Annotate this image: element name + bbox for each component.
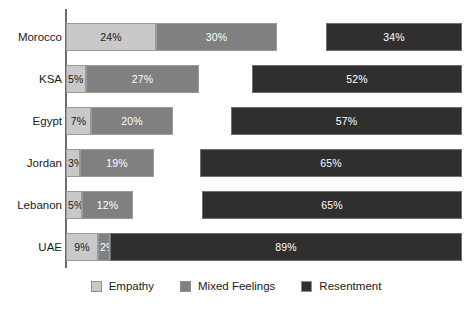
bar-segment-mixed-feelings[interactable]: 19% [80, 149, 154, 177]
legend-item-mixed-feelings[interactable]: Mixed Feelings [180, 280, 275, 292]
bar-segment-empathy[interactable]: 24% [66, 23, 156, 51]
legend-item-empathy[interactable]: Empathy [91, 280, 154, 292]
row-label: Egypt [0, 100, 62, 142]
row-label: UAE [0, 226, 62, 268]
bar-segment-resentment[interactable]: 65% [200, 149, 462, 177]
chart-legend: Empathy Mixed Feelings Resentment [0, 276, 472, 296]
chart-row-jordan: Jordan 3% 19% 65% [0, 142, 472, 184]
row-label: Jordan [0, 142, 62, 184]
legend-item-resentment[interactable]: Resentment [301, 280, 381, 292]
bar-segment-empathy[interactable]: 5% [66, 65, 86, 93]
legend-label: Resentment [319, 280, 381, 292]
chart-row-egypt: Egypt 7% 20% 57% [0, 100, 472, 142]
stacked-bar-chart: Morocco 24% 30% 34% KSA 5% 27% 52% Egypt… [0, 0, 472, 310]
bar-segment-mixed-feelings[interactable]: 2% [98, 233, 110, 261]
row-label: KSA [0, 58, 62, 100]
bar-segment-mixed-feelings[interactable]: 30% [156, 23, 277, 51]
bar-band: 3% 19% 65% [66, 149, 472, 177]
bar-band: 5% 27% 52% [66, 65, 472, 93]
bar-segment-resentment[interactable]: 34% [326, 23, 462, 51]
bar-segment-resentment[interactable]: 89% [110, 233, 462, 261]
plot-area: Morocco 24% 30% 34% KSA 5% 27% 52% Egypt… [0, 0, 472, 272]
chart-row-lebanon: Lebanon 5% 12% 65% [0, 184, 472, 226]
bar-segment-mixed-feelings[interactable]: 12% [82, 191, 133, 219]
bar-segment-resentment[interactable]: 57% [231, 107, 462, 135]
bar-segment-empathy[interactable]: 7% [66, 107, 91, 135]
bar-segment-empathy[interactable]: 9% [66, 233, 98, 261]
chart-row-morocco: Morocco 24% 30% 34% [0, 16, 472, 58]
bar-segment-resentment[interactable]: 52% [252, 65, 462, 93]
bar-segment-mixed-feelings[interactable]: 27% [86, 65, 199, 93]
legend-label: Empathy [109, 280, 154, 292]
bar-band: 24% 30% 34% [66, 23, 472, 51]
bar-band: 7% 20% 57% [66, 107, 472, 135]
bar-segment-mixed-feelings[interactable]: 20% [91, 107, 173, 135]
legend-swatch-icon [301, 281, 312, 292]
legend-swatch-icon [180, 281, 191, 292]
legend-label: Mixed Feelings [198, 280, 275, 292]
bar-segment-empathy[interactable]: 5% [66, 191, 82, 219]
bar-band: 9% 2% 89% [66, 233, 472, 261]
bar-band: 5% 12% 65% [66, 191, 472, 219]
chart-row-uae: UAE 9% 2% 89% [0, 226, 472, 268]
legend-swatch-icon [91, 281, 102, 292]
bar-segment-resentment[interactable]: 65% [202, 191, 462, 219]
bar-segment-empathy[interactable]: 3% [66, 149, 80, 177]
row-label: Lebanon [0, 184, 62, 226]
row-label: Morocco [0, 16, 62, 58]
chart-row-ksa: KSA 5% 27% 52% [0, 58, 472, 100]
